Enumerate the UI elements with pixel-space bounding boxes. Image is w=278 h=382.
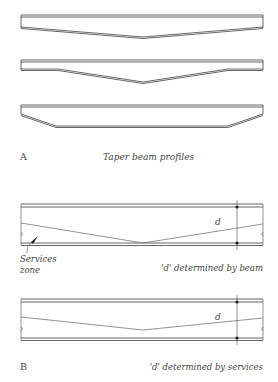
taper-profile-2 — [21, 60, 263, 84]
services-determined-section — [21, 295, 263, 345]
depth-label-beam: d — [215, 217, 221, 227]
services-zone-label-line2: zone — [19, 265, 40, 275]
beam-determined-section — [21, 200, 263, 253]
part-a-label: A — [19, 151, 27, 162]
caption-determined-by-beam: 'd' determined by beam — [161, 263, 263, 273]
taper-beam-diagram: A Taper beam profiles d Services zone 'd… — [0, 0, 278, 382]
part-b-label: B — [20, 361, 27, 372]
taper-profile-1 — [21, 15, 263, 39]
services-zone-label-line1: Services — [20, 254, 57, 264]
services-zone-line — [21, 223, 263, 243]
services-zone-pointer — [27, 242, 31, 253]
depth-label-services: d — [215, 312, 221, 322]
services-zone-line — [21, 317, 263, 330]
part-a-caption: Taper beam profiles — [103, 152, 194, 162]
caption-determined-by-services: 'd' determined by services — [150, 362, 264, 372]
taper-profile-3 — [21, 105, 263, 128]
